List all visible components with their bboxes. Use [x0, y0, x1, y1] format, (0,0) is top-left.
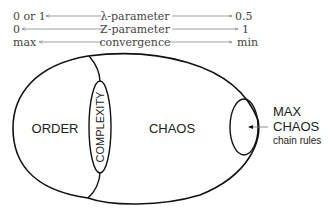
callout-line2: CHAOS: [273, 119, 320, 134]
convergence-scale: max convergence min: [13, 36, 258, 49]
chaos-label: CHAOS: [149, 121, 196, 136]
convergence-right-value: min: [237, 36, 258, 49]
callout-arrowhead-icon: [248, 125, 253, 129]
complexity-boundary-top: [89, 56, 100, 82]
convergence-left-value: max: [13, 36, 37, 49]
complexity-boundary-bottom: [88, 172, 100, 198]
complexity-label: COMPLEXITY: [94, 91, 106, 163]
z-left-value: 0: [13, 23, 20, 36]
convergence-label: convergence: [99, 36, 170, 49]
lambda-scale: 0 or 1 λ-parameter 0.5: [13, 10, 253, 23]
lambda-left-value: 0 or 1: [13, 10, 46, 23]
callout-line3: chain rules: [273, 135, 321, 146]
order-label: ORDER: [32, 121, 79, 136]
lambda-label: λ-parameter: [100, 10, 170, 23]
z-right-value: 1: [242, 23, 249, 36]
callout-line1: MAX: [273, 104, 302, 119]
diagram: 0 or 1 λ-parameter 0.5 0 Z-parameter 1 m…: [0, 0, 334, 211]
lambda-right-value: 0.5: [235, 10, 253, 23]
z-scale: 0 Z-parameter 1: [13, 23, 249, 36]
z-label: Z-parameter: [100, 23, 171, 36]
